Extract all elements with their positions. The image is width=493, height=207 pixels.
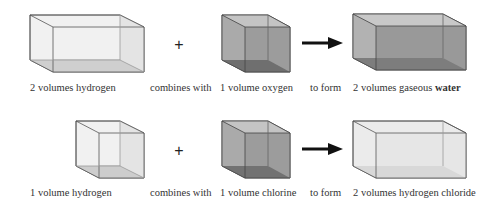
plus-sign: + bbox=[174, 142, 183, 159]
label-connector1: combines with bbox=[150, 82, 212, 93]
reaction-diagram: + bbox=[0, 0, 493, 207]
box-water-2vol bbox=[353, 14, 466, 70]
label-connector2: to form bbox=[310, 187, 341, 198]
label-connector2: to form bbox=[310, 82, 341, 93]
product-prefix: 2 volumes gaseous bbox=[353, 82, 432, 93]
box-hydrogen-chloride-2vol bbox=[353, 121, 466, 178]
arrow-icon bbox=[302, 143, 343, 155]
box-hydrogen-1vol bbox=[76, 121, 144, 178]
label-reactant2: 1 volume oxygen bbox=[220, 82, 293, 93]
label-reactant1: 2 volumes hydrogen bbox=[30, 82, 116, 93]
plus-sign: + bbox=[174, 36, 183, 53]
label-connector1: combines with bbox=[150, 187, 212, 198]
box-hydrogen-2vol bbox=[30, 15, 144, 72]
box-chlorine-1vol bbox=[222, 121, 290, 178]
product-emphasis: water bbox=[435, 82, 461, 93]
arrow-icon bbox=[302, 37, 343, 49]
label-reactant2: 1 volume chlorine bbox=[220, 187, 296, 198]
label-product: 2 volumes gaseous water bbox=[353, 82, 461, 93]
label-product: 2 volumes hydrogen chloride bbox=[353, 187, 476, 198]
box-oxygen-1vol bbox=[222, 15, 290, 72]
label-reactant1: 1 volume hydrogen bbox=[30, 187, 112, 198]
